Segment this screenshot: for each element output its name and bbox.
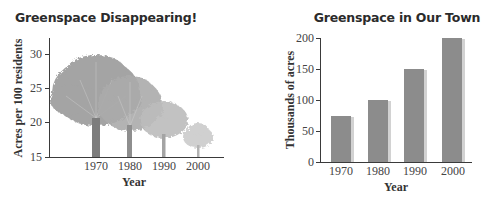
- x-tick-label: 1970: [84, 159, 108, 174]
- x-tick-label: 1970: [329, 164, 353, 179]
- y-tick-label: 20: [30, 115, 42, 130]
- y-tick-label: 100: [296, 93, 314, 108]
- x-tick-label: 2000: [186, 159, 210, 174]
- x-axis-label: Year: [384, 180, 408, 195]
- y-tick-label: 0: [308, 155, 314, 170]
- bar-1980: [368, 100, 391, 162]
- y-tick-label: 30: [30, 47, 42, 62]
- bar-1990: [404, 69, 427, 162]
- tree-icon-1990: [140, 101, 188, 157]
- x-tick-label: 2000: [441, 164, 465, 179]
- y-axis-label: Acres per 100 residents: [11, 39, 26, 158]
- x-tick-label: 1990: [152, 159, 176, 174]
- bar-1970: [331, 116, 354, 162]
- y-tick-label: 150: [296, 62, 314, 77]
- bar-series: [331, 38, 465, 162]
- tree-icon-2000: [183, 123, 213, 157]
- y-tick-label: 200: [296, 31, 314, 46]
- x-tick-label: 1980: [118, 159, 142, 174]
- x-tick-label: 1990: [403, 164, 427, 179]
- x-axis-label: Year: [122, 175, 146, 190]
- chart-title: Greenspace in Our Town: [314, 10, 480, 25]
- bar-2000: [442, 38, 465, 162]
- y-tick-label: 50: [302, 124, 314, 139]
- y-tick-label: 15: [30, 150, 42, 165]
- x-tick-label: 1980: [366, 164, 390, 179]
- y-tick-label: 25: [30, 81, 42, 96]
